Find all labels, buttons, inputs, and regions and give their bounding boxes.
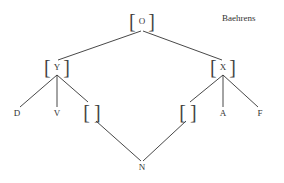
node-d: D [14, 108, 21, 118]
node-label: O [136, 16, 149, 26]
edge-x-f [223, 75, 258, 107]
bracket-close: ] [94, 102, 101, 122]
node-x: [ X ] [210, 57, 236, 77]
node-y: [ Y ] [44, 57, 70, 77]
bracket-close: ] [148, 11, 155, 31]
node-o: [ O ] [129, 11, 155, 31]
node-label: X [217, 62, 230, 72]
edge-l-n [96, 121, 141, 161]
node-a: A [220, 108, 227, 118]
node-label: Y [51, 62, 64, 72]
bracket-open: [ [44, 57, 51, 77]
bracket-open: [ [210, 57, 217, 77]
edge-o-y [58, 31, 141, 60]
node-v: V [54, 108, 61, 118]
diagram-title: Baehrens [222, 13, 256, 23]
bracket-open: [ [179, 102, 186, 122]
edge-x-r [190, 75, 223, 102]
bracket-close: ] [63, 57, 70, 77]
edge-r-n [143, 121, 186, 161]
bracket-open: [ [129, 11, 136, 31]
edge-y-l [57, 75, 88, 102]
node-f: F [257, 108, 262, 118]
bracket-close: ] [229, 57, 236, 77]
node-lost-left: [ ] [83, 102, 100, 122]
bracket-close: ] [190, 102, 197, 122]
bracket-open: [ [83, 102, 90, 122]
edge-y-d [20, 75, 57, 107]
node-n: N [139, 162, 146, 172]
node-lost-right: [ ] [179, 102, 196, 122]
